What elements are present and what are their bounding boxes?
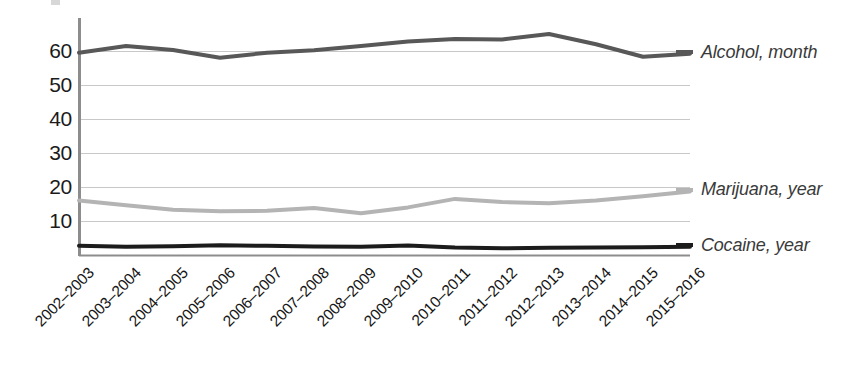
legend-item: Alcohol, month xyxy=(676,42,817,63)
y-tick-label: 60 xyxy=(26,40,72,61)
legend-color-swatch xyxy=(676,50,693,54)
series-line-marijuana-year xyxy=(79,191,690,213)
line-chart: 102030405060 2002–20032003–20042004–2005… xyxy=(0,0,857,374)
series-line-cocaine-year xyxy=(79,245,690,248)
y-tick-label: 10 xyxy=(26,210,72,231)
legend-label: Alcohol, month xyxy=(701,42,817,63)
legend-item: Cocaine, year xyxy=(676,235,809,256)
y-tick-label: 20 xyxy=(26,176,72,197)
legend-color-swatch xyxy=(676,243,693,247)
y-tick-label: 30 xyxy=(26,142,72,163)
series-line-alcohol-month xyxy=(79,34,690,58)
y-tick-label: 50 xyxy=(26,74,72,95)
legend-label: Cocaine, year xyxy=(701,235,809,256)
series-lines xyxy=(79,34,690,248)
legend-label: Marijuana, year xyxy=(701,179,822,200)
gridlines xyxy=(79,52,690,222)
legend-item: Marijuana, year xyxy=(676,179,822,200)
legend-color-swatch xyxy=(676,188,693,192)
y-tick-label: 40 xyxy=(26,108,72,129)
